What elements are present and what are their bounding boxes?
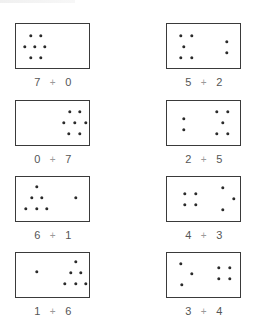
dot — [67, 132, 70, 135]
equation-label: 2+5 — [166, 153, 242, 165]
dot — [228, 266, 231, 269]
dot — [24, 207, 27, 210]
dot — [180, 283, 183, 286]
cropped-header-remnant — [0, 0, 75, 3]
equation-label: 3+4 — [166, 305, 242, 317]
addition-card-5-plus-2: 5+2 — [166, 23, 250, 91]
equation-label: 0+7 — [15, 153, 91, 165]
left-addend: 6 — [34, 229, 41, 241]
dot — [84, 121, 87, 124]
dot — [225, 40, 228, 43]
right-addend: 2 — [216, 76, 223, 88]
dot — [232, 197, 235, 200]
right-addend: 4 — [216, 305, 223, 317]
equation-label: 6+1 — [15, 229, 91, 241]
dot — [35, 207, 38, 210]
dot — [182, 45, 185, 48]
dot-box — [166, 100, 241, 146]
equation-label: 7+0 — [15, 76, 91, 88]
dot — [62, 121, 65, 124]
addition-card-7-plus-0: 7+0 — [15, 23, 99, 91]
dot — [194, 192, 197, 195]
dot — [194, 203, 197, 206]
dot — [30, 196, 33, 199]
dot — [179, 262, 182, 265]
left-addend: 0 — [34, 153, 41, 165]
left-addend: 5 — [185, 76, 192, 88]
right-addend: 5 — [216, 153, 223, 165]
dot-box — [166, 23, 241, 69]
dot — [217, 277, 220, 280]
dot — [84, 282, 87, 285]
left-addend: 3 — [185, 305, 192, 317]
dot — [39, 34, 42, 37]
dot — [221, 121, 224, 124]
dot — [225, 51, 228, 54]
dot — [190, 272, 193, 275]
dot — [226, 132, 229, 135]
dot — [79, 271, 82, 274]
dot — [78, 132, 81, 135]
dot — [74, 282, 77, 285]
dot — [74, 260, 77, 263]
left-addend: 4 — [185, 229, 192, 241]
dot — [35, 185, 38, 188]
dot — [217, 266, 220, 269]
dot-box — [166, 176, 241, 222]
plus-sign: + — [50, 306, 56, 317]
dot — [74, 196, 77, 199]
left-addend: 1 — [34, 305, 41, 317]
dot-box — [15, 176, 90, 222]
dot — [182, 128, 185, 131]
right-addend: 7 — [65, 153, 72, 165]
addition-card-3-plus-4: 3+4 — [166, 252, 250, 320]
dot — [73, 121, 76, 124]
plus-sign: + — [201, 154, 207, 165]
dot — [78, 110, 81, 113]
dot — [43, 45, 46, 48]
dot — [228, 277, 231, 280]
dot-box — [15, 23, 90, 69]
dot — [68, 110, 71, 113]
plus-sign: + — [50, 77, 56, 88]
dot — [190, 34, 193, 37]
dot-box — [15, 100, 90, 146]
right-addend: 0 — [65, 76, 72, 88]
dot — [69, 271, 72, 274]
left-addend: 2 — [185, 153, 192, 165]
right-addend: 6 — [65, 305, 72, 317]
addition-card-4-plus-3: 4+3 — [166, 176, 250, 244]
dot — [221, 208, 224, 211]
addition-card-6-plus-1: 6+1 — [15, 176, 99, 244]
plus-sign: + — [50, 154, 56, 165]
dot — [215, 110, 218, 113]
dot-box — [166, 252, 241, 298]
addition-card-2-plus-5: 2+5 — [166, 100, 250, 168]
dot — [226, 110, 229, 113]
dot — [40, 196, 43, 199]
dot — [182, 117, 185, 120]
dot — [23, 45, 26, 48]
plus-sign: + — [201, 306, 207, 317]
dot — [63, 282, 66, 285]
right-addend: 1 — [65, 229, 72, 241]
dot — [179, 34, 182, 37]
equation-label: 4+3 — [166, 229, 242, 241]
addition-card-0-plus-7: 0+7 — [15, 100, 99, 168]
dot — [29, 56, 32, 59]
plus-sign: + — [50, 230, 56, 241]
dot — [221, 186, 224, 189]
dot — [35, 270, 38, 273]
dot — [183, 192, 186, 195]
dot — [45, 207, 48, 210]
equation-label: 5+2 — [166, 76, 242, 88]
dot — [179, 56, 182, 59]
dot — [33, 45, 36, 48]
dot — [29, 34, 32, 37]
left-addend: 7 — [34, 76, 41, 88]
equation-label: 1+6 — [15, 305, 91, 317]
plus-sign: + — [201, 230, 207, 241]
dot — [190, 56, 193, 59]
addition-card-1-plus-6: 1+6 — [15, 252, 99, 320]
dot — [39, 56, 42, 59]
